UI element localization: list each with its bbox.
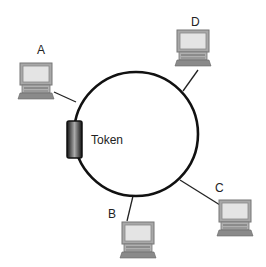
link-c (180, 180, 220, 205)
computer-c-icon (217, 200, 253, 236)
link-d (183, 70, 198, 91)
node-label-d: D (191, 16, 200, 28)
token-icon (67, 121, 82, 158)
token-label: Token (91, 134, 123, 146)
node-label-b: B (108, 208, 116, 220)
computer-d-icon (175, 30, 211, 66)
link-a (54, 92, 76, 102)
computer-b-icon (120, 222, 156, 258)
computer-a-icon (18, 63, 54, 99)
node-label-c: C (215, 182, 224, 194)
node-label-a: A (37, 44, 45, 56)
link-b (127, 196, 133, 221)
token-ring-diagram (0, 0, 266, 267)
